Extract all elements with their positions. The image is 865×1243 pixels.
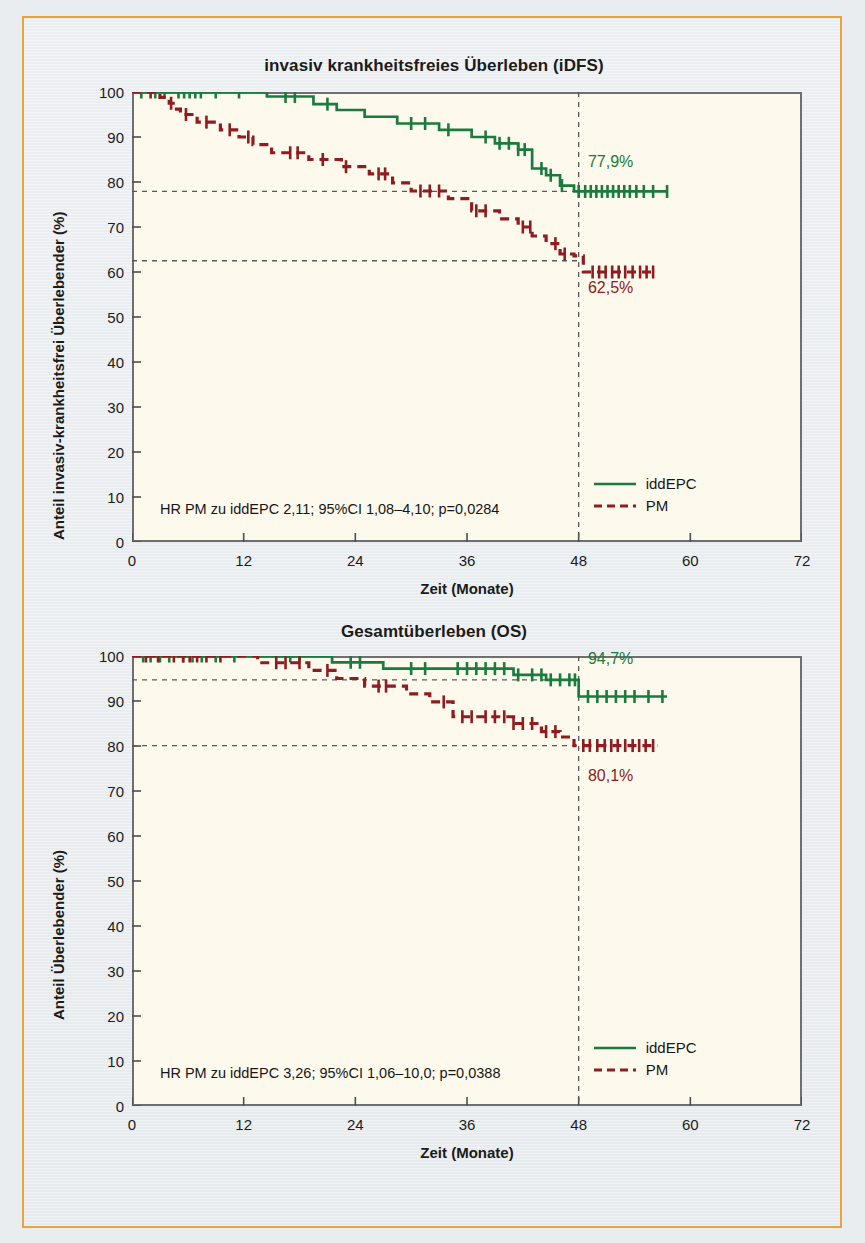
legend-item-iddepc: iddEPC (593, 1037, 697, 1059)
x-tick-label: 12 (235, 1116, 252, 1133)
y-tick-label: 70 (78, 783, 124, 800)
x-axis-ticks-os: 0122436486072 (132, 1116, 802, 1138)
stat-annotation-os: HR PM zu iddEPC 3,26; 95%CI 1,06–10,0; p… (160, 1065, 501, 1081)
x-tick-label: 72 (794, 1116, 811, 1133)
chart-panel-os: Gesamtüberleben (OS) Anteil Überlebender… (24, 610, 844, 1210)
y-tick-label: 50 (78, 309, 124, 326)
x-tick-label: 0 (128, 1116, 136, 1133)
y-tick-label: 70 (78, 219, 124, 236)
figure-page: invasiv krankheitsfreies Überleben (iDFS… (0, 0, 865, 1243)
x-axis-title-os: Zeit (Monate) (132, 1144, 802, 1161)
y-tick-label: 80 (78, 738, 124, 755)
x-tick-label: 12 (235, 552, 252, 569)
y-tick-label: 0 (78, 534, 124, 551)
x-tick-label: 60 (682, 1116, 699, 1133)
curve-label-iddepc-idfs: 77,9% (588, 153, 633, 171)
kaplan-meier-curves-idfs (132, 92, 802, 542)
x-tick-label: 24 (347, 552, 364, 569)
y-tick-label: 80 (78, 174, 124, 191)
y-tick-label: 90 (78, 129, 124, 146)
x-tick-label: 72 (794, 552, 811, 569)
curve-label-iddepc-os: 94,7% (588, 650, 633, 668)
x-tick-label: 48 (570, 1116, 587, 1133)
y-tick-label: 40 (78, 354, 124, 371)
curve-label-pm-idfs: 62,5% (588, 279, 633, 297)
y-tick-label: 30 (78, 399, 124, 416)
legend-line-solid-icon (593, 478, 637, 490)
x-axis-title-idfs: Zeit (Monate) (132, 580, 802, 597)
legend-line-solid-icon (593, 1042, 637, 1054)
y-tick-label: 0 (78, 1098, 124, 1115)
figure-frame: invasiv krankheitsfreies Überleben (iDFS… (22, 16, 842, 1228)
y-tick-label: 10 (78, 1053, 124, 1070)
y-tick-label: 30 (78, 963, 124, 980)
y-tick-label: 100 (78, 648, 124, 665)
y-axis-title-os: Anteil Überlebender (%) (50, 850, 67, 1020)
y-tick-label: 20 (78, 444, 124, 461)
y-tick-label: 40 (78, 918, 124, 935)
x-tick-label: 60 (682, 552, 699, 569)
x-tick-label: 36 (459, 1116, 476, 1133)
x-axis-ticks-idfs: 0122436486072 (132, 552, 802, 574)
legend-label-pm: PM (646, 1062, 669, 1077)
y-tick-label: 20 (78, 1008, 124, 1025)
x-tick-label: 48 (570, 552, 587, 569)
x-tick-label: 0 (128, 552, 136, 569)
legend-os: iddEPC PM (593, 1037, 697, 1081)
plot-area-idfs: 77,9% 62,5% HR PM zu iddEPC 2,11; 95%CI … (132, 92, 802, 542)
chart-title-os: Gesamtüberleben (OS) (24, 622, 844, 642)
x-tick-label: 24 (347, 1116, 364, 1133)
y-tick-label: 10 (78, 489, 124, 506)
plot-area-os: 94,7% 80,1% HR PM zu iddEPC 3,26; 95%CI … (132, 656, 802, 1106)
legend-item-iddepc: iddEPC (593, 473, 697, 495)
legend-idfs: iddEPC PM (593, 473, 697, 517)
legend-item-pm: PM (593, 495, 697, 517)
y-tick-label: 60 (78, 828, 124, 845)
y-axis-title-idfs: Anteil invasiv-krankheitsfrei Überlebend… (50, 212, 67, 540)
legend-label-iddepc: iddEPC (646, 476, 697, 491)
curve-label-pm-os: 80,1% (588, 767, 633, 785)
legend-item-pm: PM (593, 1059, 697, 1081)
chart-panel-idfs: invasiv krankheitsfreies Überleben (iDFS… (24, 40, 844, 620)
y-tick-label: 90 (78, 693, 124, 710)
y-axis-ticks-os: 1009080706050403020100 (78, 656, 124, 1106)
chart-title-idfs: invasiv krankheitsfreies Überleben (iDFS… (24, 56, 844, 76)
legend-line-dashed-icon (593, 500, 637, 512)
y-tick-label: 100 (78, 84, 124, 101)
legend-line-dashed-icon (593, 1064, 637, 1076)
stat-annotation-idfs: HR PM zu iddEPC 2,11; 95%CI 1,08–4,10; p… (160, 501, 499, 517)
y-axis-ticks-idfs: 1009080706050403020100 (78, 92, 124, 542)
legend-label-iddepc: iddEPC (646, 1040, 697, 1055)
kaplan-meier-curves-os (132, 656, 802, 1106)
x-tick-label: 36 (459, 552, 476, 569)
legend-label-pm: PM (646, 498, 669, 513)
y-tick-label: 50 (78, 873, 124, 890)
y-tick-label: 60 (78, 264, 124, 281)
